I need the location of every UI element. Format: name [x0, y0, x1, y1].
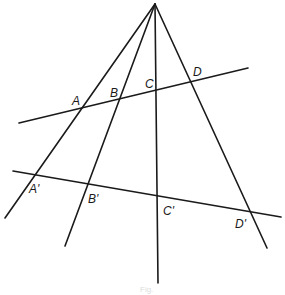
label-b-prime: B'	[88, 192, 99, 206]
label-a: A	[71, 94, 80, 108]
label-d: D	[193, 65, 202, 79]
label-c: C	[145, 77, 154, 91]
label-b: B	[110, 86, 118, 100]
ray-through-c	[155, 4, 158, 283]
cross-ratio-diagram: A B C D A' B' C' D' Fig.	[0, 0, 285, 295]
upper-transversal	[19, 68, 248, 123]
label-d-prime: D'	[235, 217, 247, 231]
label-a-prime: A'	[28, 182, 40, 196]
diagram-canvas: A B C D A' B' C' D' Fig.	[0, 0, 285, 295]
figure-caption: Fig.	[140, 285, 153, 294]
label-c-prime: C'	[163, 204, 175, 218]
lower-transversal	[13, 171, 281, 217]
ray-through-b	[65, 4, 155, 246]
ray-through-a	[5, 4, 155, 218]
